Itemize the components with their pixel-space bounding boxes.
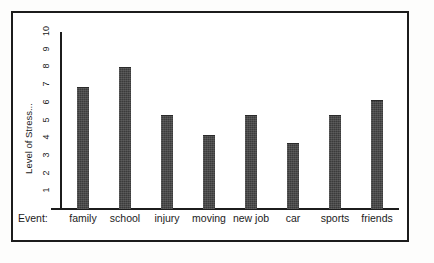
x-tick-label-family: family	[62, 212, 104, 224]
bar-school[interactable]	[119, 67, 131, 209]
plot-area	[62, 32, 398, 209]
bar-slot	[188, 32, 230, 209]
x-tick-label-new-job: new job	[230, 212, 272, 224]
bar-injury[interactable]	[161, 115, 173, 209]
chart-page: Level of Stress... 12345678910 Event: fa…	[0, 0, 434, 263]
bar-chart: Level of Stress... 12345678910 Event: fa…	[13, 13, 407, 240]
bar-moving[interactable]	[203, 135, 215, 209]
figure-frame: Level of Stress... 12345678910 Event: fa…	[11, 11, 409, 242]
y-axis-title: Level of Stress...	[23, 91, 34, 187]
bar-friends[interactable]	[371, 100, 383, 209]
bar-slot	[62, 32, 104, 209]
bar-slot	[146, 32, 188, 209]
bar-family[interactable]	[77, 87, 89, 209]
bar-new-job[interactable]	[245, 115, 257, 209]
x-axis-title: Event:	[18, 212, 48, 224]
x-tick-label-injury: injury	[146, 212, 188, 224]
bar-slot	[230, 32, 272, 209]
bar-sports[interactable]	[329, 115, 341, 209]
bar-car[interactable]	[287, 143, 299, 209]
x-tick-label-car: car	[272, 212, 314, 224]
x-tick-label-school: school	[104, 212, 146, 224]
bar-slot	[272, 32, 314, 209]
bar-slot	[314, 32, 356, 209]
bar-slot	[104, 32, 146, 209]
y-tick-label: 10	[41, 20, 51, 42]
x-tick-label-moving: moving	[188, 212, 230, 224]
x-axis-tick-labels: familyschoolinjurymovingnew jobcarsports…	[62, 212, 398, 230]
x-tick-label-friends: friends	[356, 212, 398, 224]
x-tick-label-sports: sports	[314, 212, 356, 224]
bar-slot	[356, 32, 398, 209]
